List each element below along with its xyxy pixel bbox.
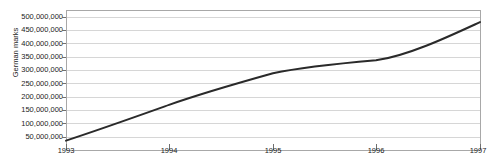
plot-background — [66, 10, 480, 150]
x-tick-label: 1997 — [470, 146, 487, 155]
y-axis-ticks — [62, 17, 66, 137]
x-tick-label: 1996 — [368, 146, 385, 155]
plot-area — [0, 0, 499, 158]
line-chart: German marks 500,000,000 450,000,000 400… — [0, 0, 499, 158]
x-tick-label: 1993 — [58, 146, 75, 155]
x-tick-label: 1995 — [265, 146, 282, 155]
x-tick-label: 1994 — [161, 146, 178, 155]
